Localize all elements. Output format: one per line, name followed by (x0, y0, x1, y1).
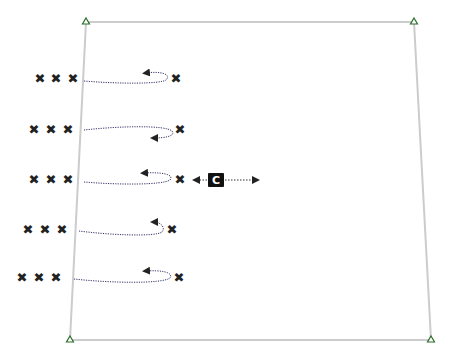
player-x-icon: ✖ (29, 122, 40, 137)
lead-player-x-icon: ✖ (175, 172, 186, 187)
player-x-icon: ✖ (63, 122, 74, 137)
player-x-icon: ✖ (40, 222, 51, 237)
lead-player-x-icon: ✖ (175, 122, 186, 137)
run-path-arrow (84, 173, 171, 184)
row-3: ✖✖✖✖ (29, 172, 186, 187)
run-path-arrow (84, 72, 168, 83)
player-x-icon: ✖ (57, 222, 68, 237)
player-x-icon: ✖ (68, 71, 79, 86)
player-x-icon: ✖ (46, 122, 57, 137)
row-4: ✖✖✖✖ (23, 222, 178, 237)
field-outline (70, 22, 431, 340)
lead-player-x-icon: ✖ (167, 222, 178, 237)
player-rows: ✖✖✖✖✖✖✖✖✖✖✖✖✖✖✖✖✖✖✖✖ (17, 71, 186, 285)
row-5: ✖✖✖✖ (17, 270, 185, 285)
row-2: ✖✖✖✖ (29, 122, 186, 138)
player-x-icon: ✖ (35, 71, 46, 86)
player-x-icon: ✖ (23, 222, 34, 237)
run-path-arrow (74, 271, 171, 282)
lead-player-x-icon: ✖ (171, 71, 182, 86)
coach-group: C (196, 173, 256, 187)
player-x-icon: ✖ (34, 270, 45, 285)
player-x-icon: ✖ (17, 270, 28, 285)
player-x-icon: ✖ (63, 172, 74, 187)
player-x-icon: ✖ (29, 172, 40, 187)
field-boundary (70, 22, 431, 340)
run-path-arrow (79, 222, 163, 235)
coach-label: C (212, 174, 220, 187)
drill-diagram: ✖✖✖✖✖✖✖✖✖✖✖✖✖✖✖✖✖✖✖✖ C (0, 0, 450, 359)
run-path-arrow (84, 127, 173, 138)
player-x-icon: ✖ (51, 270, 62, 285)
lead-player-x-icon: ✖ (174, 270, 185, 285)
player-x-icon: ✖ (46, 172, 57, 187)
diagram-canvas: ✖✖✖✖✖✖✖✖✖✖✖✖✖✖✖✖✖✖✖✖ C (0, 0, 450, 359)
row-1: ✖✖✖✖ (35, 71, 182, 86)
player-x-icon: ✖ (51, 71, 62, 86)
